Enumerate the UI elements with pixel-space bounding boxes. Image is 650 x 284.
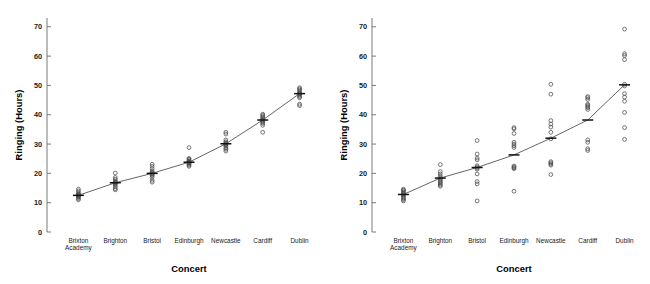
x-axis-title: Concert — [171, 263, 206, 274]
y-tick-label: 60 — [359, 52, 367, 61]
x-category-label: Bristol — [468, 237, 486, 244]
y-tick-label: 20 — [34, 169, 42, 178]
data-point — [187, 146, 191, 150]
data-point — [475, 172, 479, 176]
data-point — [623, 137, 627, 141]
x-axis-right: BrixtonAcademyBrightonBristolEdinburghNe… — [390, 237, 634, 252]
y-tick-label: 70 — [359, 22, 367, 31]
y-tick-label: 0 — [363, 228, 367, 237]
y-tick-label: 30 — [34, 140, 42, 149]
x-category-label: Cardiff — [253, 237, 272, 244]
data-point — [475, 180, 479, 184]
figure-container: 010203040506070 BrixtonAcademyBrightonBr… — [0, 0, 650, 284]
y-tick-label: 60 — [34, 52, 42, 61]
y-tick-label: 40 — [359, 110, 367, 119]
fit-line-group — [78, 94, 299, 196]
y-tick-label: 20 — [359, 169, 367, 178]
y-tick-label: 40 — [34, 110, 42, 119]
x-tick-label-group: BrixtonAcademyBrightonBristolEdinburghNe… — [65, 237, 309, 252]
x-category-label: Academy — [65, 244, 92, 252]
y-tick-label: 50 — [359, 81, 367, 90]
y-tick-group: 010203040506070 — [359, 22, 376, 236]
trend-line — [78, 94, 299, 196]
data-point — [438, 163, 442, 167]
chart-panel-left: 010203040506070 BrixtonAcademyBrightonBr… — [0, 0, 325, 284]
y-axis-title: Ringing (Hours) — [13, 90, 24, 161]
y-tick-label: 0 — [38, 228, 42, 237]
data-point — [623, 58, 627, 62]
chart-svg-right: 010203040506070 BrixtonAcademyBrightonBr… — [325, 0, 650, 284]
x-category-label: Brighton — [428, 237, 452, 245]
chart-svg-left: 010203040506070 BrixtonAcademyBrightonBr… — [0, 0, 325, 284]
x-category-label: Dublin — [616, 237, 635, 244]
data-point — [549, 92, 553, 96]
x-category-label: Brighton — [103, 237, 127, 245]
x-axis-title: Concert — [496, 263, 531, 274]
chart-panel-right: 010203040506070 BrixtonAcademyBrightonBr… — [325, 0, 650, 284]
mean-marker-group — [398, 85, 630, 195]
x-category-label: Newcastle — [536, 237, 566, 244]
y-tick-label: 70 — [34, 22, 42, 31]
data-point — [475, 139, 479, 143]
y-tick-label: 50 — [34, 81, 42, 90]
data-point — [549, 130, 553, 134]
data-point — [623, 110, 627, 114]
y-tick-label: 10 — [359, 198, 367, 207]
data-point — [475, 152, 479, 156]
x-category-label: Edinburgh — [499, 237, 529, 245]
x-tick-label-group: BrixtonAcademyBrightonBristolEdinburghNe… — [390, 237, 634, 252]
data-point — [113, 171, 117, 175]
data-point — [549, 82, 553, 86]
data-point — [512, 132, 516, 136]
data-point — [623, 99, 627, 103]
data-point — [512, 189, 516, 193]
x-category-label: Academy — [390, 244, 417, 252]
x-category-label: Brixton — [393, 237, 413, 244]
x-category-label: Brixton — [68, 237, 88, 244]
y-tick-label: 10 — [34, 198, 42, 207]
data-point — [623, 126, 627, 130]
data-point — [475, 199, 479, 203]
x-category-label: Bristol — [143, 237, 161, 244]
y-tick-group: 010203040506070 — [34, 22, 51, 236]
x-category-label: Cardiff — [578, 237, 597, 244]
mean-marker-group — [73, 94, 305, 196]
x-axis-left: BrixtonAcademyBrightonBristolEdinburghNe… — [65, 237, 309, 252]
y-axis-title: Ringing (Hours) — [338, 90, 349, 161]
x-category-label: Newcastle — [211, 237, 241, 244]
x-category-label: Edinburgh — [174, 237, 204, 245]
x-category-label: Dublin — [291, 237, 310, 244]
data-point — [549, 173, 553, 177]
data-point — [623, 27, 627, 31]
data-point — [586, 138, 590, 142]
data-point — [438, 170, 442, 174]
y-axis-right: 010203040506070 — [359, 18, 376, 237]
y-axis-left: 010203040506070 — [34, 18, 51, 237]
data-point — [261, 130, 265, 134]
y-tick-label: 30 — [359, 140, 367, 149]
